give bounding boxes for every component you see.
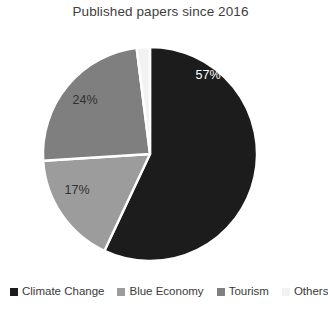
legend-item-label: Blue Economy <box>129 286 203 298</box>
legend-item-blue-economy[interactable]: Blue Economy <box>117 286 203 298</box>
chart-legend: Climate ChangeBlue EconomyTourismOthers <box>0 286 321 298</box>
slice-value-label: 17% <box>64 183 89 197</box>
pie-svg: 57%17%24%2% <box>0 24 321 276</box>
legend-item-others[interactable]: Others <box>282 286 328 298</box>
legend-item-label: Others <box>294 286 328 298</box>
legend-item-label: Climate Change <box>22 286 104 298</box>
legend-swatch-icon <box>117 288 125 296</box>
bottom-divider <box>0 312 321 313</box>
legend-item-label: Tourism <box>229 286 269 298</box>
slice-value-label: 57% <box>195 68 220 82</box>
legend-swatch-icon <box>282 288 290 296</box>
pie-slices-group <box>43 47 257 261</box>
legend-swatch-icon <box>217 288 225 296</box>
slice-value-label: 2% <box>134 24 152 25</box>
chart-title: Published papers since 2016 <box>0 4 321 19</box>
slice-value-label: 24% <box>72 93 97 107</box>
legend-swatch-icon <box>10 288 18 296</box>
legend-item-climate-change[interactable]: Climate Change <box>10 286 104 298</box>
pie-plot-area: 57%17%24%2% <box>0 24 321 276</box>
legend-item-tourism[interactable]: Tourism <box>217 286 269 298</box>
